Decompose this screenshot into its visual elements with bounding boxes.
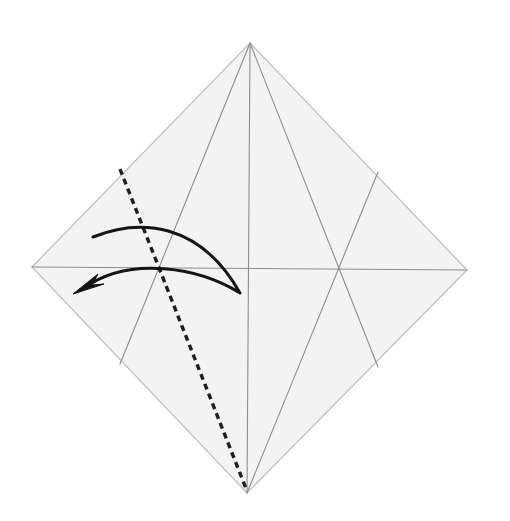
diagram-canvas [0,0,510,521]
origami-diagram [0,0,510,521]
